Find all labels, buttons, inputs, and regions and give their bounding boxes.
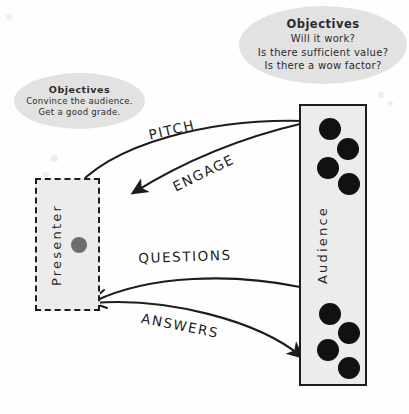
bubble-title: Objectives (49, 84, 110, 95)
bubble-line: Is there sufficient value? (258, 46, 389, 60)
person-dot-audience (338, 173, 360, 195)
person-dot-presenter (71, 237, 87, 253)
diagram-canvas: Objectives Will it work? Is there suffic… (0, 0, 409, 414)
person-dot-audience (338, 357, 360, 379)
arrow-questions (95, 278, 300, 301)
paper-speck (6, 14, 12, 20)
bubble-line: Is there a wow factor? (264, 59, 381, 73)
person-dot-audience (317, 339, 339, 361)
person-dot-audience (317, 157, 339, 179)
bubble-line: Convince the audience. (26, 96, 133, 107)
actor-box-audience: Audience (299, 104, 367, 386)
paper-speck (378, 92, 384, 98)
person-dot-audience (319, 118, 341, 140)
paper-speck (51, 155, 58, 162)
actor-label-presenter: Presenter (49, 204, 64, 286)
actor-box-presenter: Presenter (35, 178, 100, 311)
person-dot-audience (337, 138, 359, 160)
actor-label-audience: Audience (315, 206, 330, 284)
person-dot-audience (319, 303, 341, 325)
bubble-line: Will it work? (291, 32, 355, 46)
bubble-line: Get a good grade. (38, 107, 120, 118)
person-dot-audience (338, 322, 360, 344)
thought-bubble-audience-objectives: Objectives Will it work? Is there suffic… (239, 6, 407, 84)
bubble-title: Objectives (286, 17, 359, 31)
arrow-label-questions: QUESTIONS (138, 247, 232, 266)
thought-bubble-presenter-objectives: Objectives Convince the audience. Get a … (14, 73, 145, 129)
paper-speck (388, 101, 393, 106)
